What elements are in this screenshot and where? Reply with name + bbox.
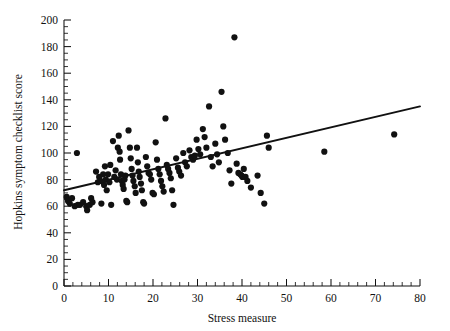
data-point — [161, 188, 167, 194]
x-tick-label: 70 — [370, 292, 382, 304]
data-point — [178, 173, 184, 179]
y-tick-label: 100 — [41, 147, 59, 159]
data-point — [117, 149, 123, 155]
data-point — [125, 127, 131, 133]
y-axis-title: Hopkins symptom checklist score — [12, 74, 25, 230]
data-point — [170, 202, 176, 208]
data-point — [231, 34, 237, 40]
data-point — [158, 178, 164, 184]
data-point — [133, 190, 139, 196]
data-point — [254, 173, 260, 179]
data-point — [194, 137, 200, 143]
data-point — [157, 171, 163, 177]
data-point — [180, 150, 186, 156]
data-point — [186, 147, 192, 153]
data-point — [202, 134, 208, 140]
y-tick-label: 80 — [47, 174, 59, 186]
data-point — [107, 162, 113, 168]
plot-canvas: 020406080100120140160180200 010203040506… — [0, 0, 450, 331]
data-point — [159, 183, 165, 189]
data-point — [197, 151, 203, 157]
data-point — [226, 167, 232, 173]
x-tick-label: 0 — [61, 292, 67, 304]
y-tick-label: 160 — [41, 67, 59, 79]
scatter-plot-figure: 020406080100120140160180200 010203040506… — [0, 0, 450, 331]
data-point — [104, 187, 110, 193]
y-tick-label: 200 — [41, 14, 59, 26]
data-point — [195, 146, 201, 152]
data-point — [321, 149, 327, 155]
x-tick-label: 20 — [147, 292, 159, 304]
data-point — [212, 141, 218, 147]
data-point — [93, 169, 99, 175]
data-point — [220, 123, 226, 129]
data-point — [228, 180, 234, 186]
data-point — [222, 137, 228, 143]
y-tick-label: 60 — [47, 200, 59, 212]
data-point — [137, 174, 143, 180]
data-point — [218, 89, 224, 95]
data-point — [69, 195, 75, 201]
data-point — [98, 200, 104, 206]
data-point — [135, 159, 141, 165]
y-tick-label: 0 — [52, 280, 58, 292]
data-point — [74, 150, 80, 156]
y-tick-label: 120 — [41, 120, 59, 132]
data-point — [121, 186, 127, 192]
data-point — [141, 200, 147, 206]
x-tick-label: 60 — [325, 292, 337, 304]
data-point — [151, 191, 157, 197]
data-point — [108, 202, 114, 208]
y-tick-label: 40 — [47, 227, 59, 239]
data-point — [127, 145, 133, 151]
x-tick-label: 10 — [103, 292, 115, 304]
data-point — [101, 182, 107, 188]
data-point — [105, 171, 111, 177]
x-tick-label: 80 — [414, 292, 426, 304]
data-point — [128, 155, 134, 161]
data-point — [129, 166, 135, 172]
data-point — [210, 163, 216, 169]
data-point — [134, 145, 140, 151]
y-tick-label: 140 — [41, 94, 59, 106]
y-tick-label: 20 — [47, 253, 59, 265]
data-point — [192, 153, 198, 159]
data-point — [206, 103, 212, 109]
data-point — [169, 187, 175, 193]
data-point — [184, 163, 190, 169]
x-tick-label: 40 — [236, 292, 248, 304]
data-point — [102, 163, 108, 169]
data-point — [144, 163, 150, 169]
data-point — [266, 145, 272, 151]
data-point — [391, 131, 397, 137]
data-point — [110, 138, 116, 144]
data-point — [234, 161, 240, 167]
data-point — [148, 177, 154, 183]
data-point — [244, 178, 250, 184]
data-point — [124, 199, 130, 205]
data-point — [261, 200, 267, 206]
data-point — [132, 183, 138, 189]
x-axis-title: Stress measure — [208, 312, 277, 324]
data-point — [241, 166, 247, 172]
data-point — [168, 175, 174, 181]
data-point — [162, 115, 168, 121]
data-point — [154, 157, 160, 163]
data-point — [258, 190, 264, 196]
data-point — [84, 207, 90, 213]
x-tick-label: 50 — [281, 292, 293, 304]
data-point — [139, 187, 145, 193]
data-point — [116, 133, 122, 139]
data-point — [143, 154, 149, 160]
data-point — [130, 178, 136, 184]
data-point — [166, 170, 172, 176]
data-point — [173, 155, 179, 161]
data-point — [138, 180, 144, 186]
data-point — [248, 184, 254, 190]
data-point — [147, 171, 153, 177]
data-point — [203, 145, 209, 151]
data-point — [113, 167, 119, 173]
data-point — [200, 126, 206, 132]
data-point — [89, 199, 95, 205]
data-point — [216, 159, 222, 165]
